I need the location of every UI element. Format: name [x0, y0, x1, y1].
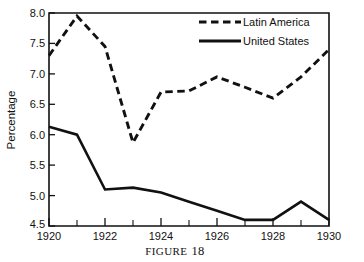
x-tick-label: 1930 — [317, 230, 341, 242]
y-tick-label: 5.5 — [30, 159, 45, 171]
y-tick-label: 7.5 — [30, 37, 45, 49]
y-axis-title: Percentage — [5, 91, 17, 150]
figure-caption: FIGURE18 — [145, 244, 204, 258]
y-tick-label: 6.5 — [30, 98, 45, 110]
legend-label-united-states: United States — [243, 35, 310, 47]
legend-label-latin-america: Latin America — [243, 16, 311, 28]
x-tick-label: 1924 — [149, 230, 173, 242]
y-tick-label: 6.0 — [30, 129, 45, 141]
svg-text:FIGURE18: FIGURE18 — [145, 244, 204, 258]
x-tick-label: 1926 — [205, 230, 229, 242]
line-chart: 8.0 7.5 7.0 6.5 6.0 5.5 — [0, 0, 364, 262]
y-tick-label: 4.5 — [30, 218, 45, 230]
y-tick-label: 5.0 — [30, 190, 45, 202]
figure-container: 8.0 7.5 7.0 6.5 6.0 5.5 — [0, 0, 364, 262]
x-tick-label: 1922 — [93, 230, 117, 242]
x-tick-label: 1928 — [261, 230, 285, 242]
caption-number: 18 — [191, 244, 204, 258]
x-tick-label: 1920 — [37, 230, 61, 242]
y-tick-label: 7.0 — [30, 68, 45, 80]
y-tick-label: 8.0 — [30, 7, 45, 19]
chart-background — [0, 0, 364, 262]
caption-word: FIGURE — [145, 245, 187, 257]
